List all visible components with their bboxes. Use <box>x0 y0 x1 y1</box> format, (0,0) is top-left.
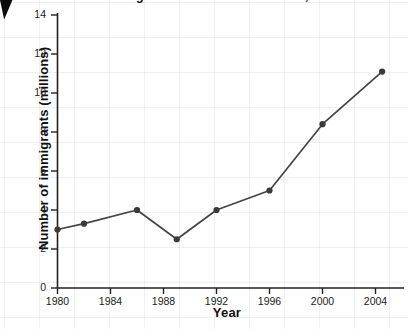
x-axis-tick-label: 2000 <box>300 295 346 307</box>
data-point <box>319 121 325 127</box>
data-line <box>58 72 383 240</box>
x-axis-tick-label: 1996 <box>247 295 293 307</box>
data-point <box>54 226 60 232</box>
axis-lines <box>58 13 405 288</box>
plot-area <box>0 0 408 329</box>
y-axis-tick-label: 12 <box>20 47 46 59</box>
data-point <box>134 207 140 213</box>
data-point-markers <box>54 68 385 242</box>
chart-screenshot: Immigration to the United States, 1980-2… <box>0 0 408 329</box>
data-point <box>174 236 180 242</box>
x-axis-ticks <box>58 288 376 294</box>
data-point <box>266 187 272 193</box>
y-axis-tick-label: 6 <box>20 164 46 176</box>
x-axis-tick-label: 2004 <box>353 295 399 307</box>
x-axis-tick-label: 1980 <box>35 295 81 307</box>
y-axis-tick-label: 2 <box>20 242 46 254</box>
y-axis-tick-label: 14 <box>20 8 46 20</box>
y-axis-tick-label: 0 <box>20 281 46 293</box>
y-axis-ticks <box>51 15 58 288</box>
y-axis-tick-label: 8 <box>20 125 46 137</box>
data-point <box>81 221 87 227</box>
x-axis-tick-label: 1984 <box>88 295 134 307</box>
x-axis-tick-label: 1992 <box>194 295 240 307</box>
x-axis-tick-label: 1988 <box>141 295 187 307</box>
y-axis-tick-label: 4 <box>20 203 46 215</box>
data-point <box>213 207 219 213</box>
y-axis-tick-label: 10 <box>20 86 46 98</box>
data-point <box>379 68 385 74</box>
